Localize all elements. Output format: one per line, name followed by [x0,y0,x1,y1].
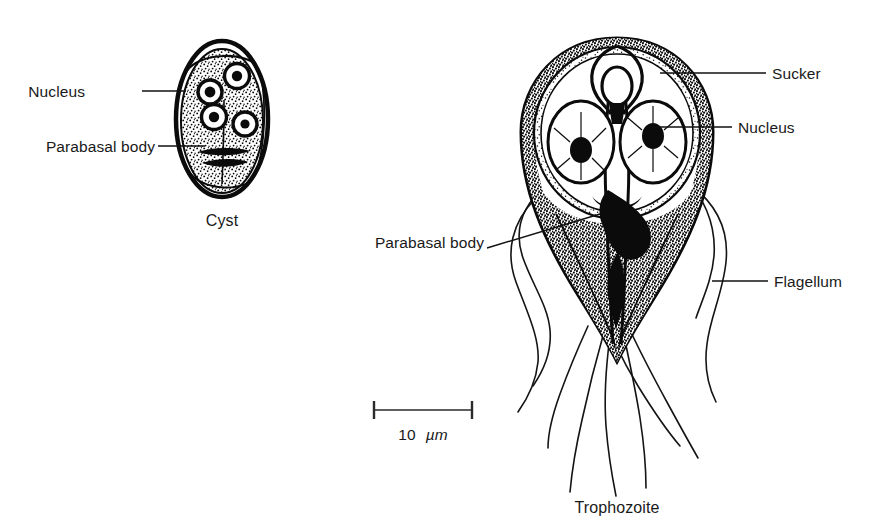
cyst-nucleus-4 [233,112,257,136]
flagellum-caudal-right-inner [624,336,646,488]
flagellum-ventral-crossing-left [548,326,588,448]
cyst-nucleus-2 [198,80,222,104]
trophozoite-caption: Trophozoite [575,499,660,516]
trophozoite-nucleus-label: Nucleus [738,119,795,136]
cyst-nucleus-label: Nucleus [28,83,85,100]
trophozoite-nucleus-right [620,101,686,183]
cyst-illustration: Nucleus Parabasal body Cyst [28,41,268,229]
scale-bar-value: 10 [398,426,416,443]
cyst-parabasal-body-label: Parabasal body [46,138,155,155]
scale-bar-label: 10 µm [398,426,447,443]
trophozoite-parabasal-body-label: Parabasal body [375,234,484,251]
trophozoite-nucleus-left [548,101,614,183]
cyst-nucleus-3 [202,105,227,130]
giardia-diagram-figure: Nucleus Parabasal body Cyst [0,0,890,521]
scale-bar-unit: µm [426,426,448,443]
trophozoite-flagellum-label: Flagellum [774,273,842,290]
trophozoite-sucker-label: Sucker [772,65,821,82]
flagellum-caudal-right [630,330,698,458]
cyst-nucleus-1 [225,64,250,89]
cyst-caption: Cyst [206,212,239,229]
trophozoite-anterior-loop-bulb [602,67,632,105]
scale-bar: 10 µm [374,401,472,443]
diagram-canvas: Nucleus Parabasal body Cyst [0,0,890,521]
trophozoite-illustration: Sucker Nucleus Flagellum Parabasal body … [375,38,842,516]
flagellum-left-outer [511,198,538,412]
